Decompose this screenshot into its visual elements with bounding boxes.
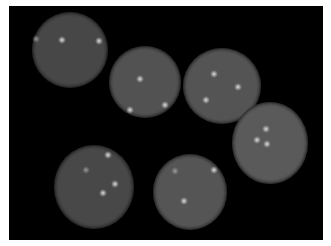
microscopy-image <box>9 6 323 240</box>
fluorescent-spot <box>210 166 218 174</box>
fluorescent-spot <box>263 140 271 148</box>
fluorescent-spot <box>111 180 119 188</box>
fluorescent-spot <box>161 101 169 109</box>
cell <box>109 46 181 118</box>
fluorescent-spot <box>202 96 210 104</box>
cell <box>153 154 227 230</box>
fluorescent-spot <box>136 75 144 83</box>
cell <box>54 145 134 229</box>
fluorescent-spot <box>32 35 40 43</box>
fluorescent-spot <box>262 125 270 133</box>
fluorescent-spot <box>180 197 188 205</box>
fluorescent-spot <box>126 106 134 114</box>
fluorescent-spot <box>104 151 112 159</box>
fluorescent-spot <box>82 166 90 174</box>
fluorescent-spot <box>234 83 242 91</box>
fluorescent-spot <box>171 167 179 175</box>
cell <box>32 12 108 88</box>
fluorescent-spot <box>253 136 261 144</box>
fluorescent-spot <box>95 37 103 45</box>
fluorescent-spot <box>99 189 107 197</box>
fluorescent-spot <box>58 36 66 44</box>
fluorescent-spot <box>210 70 218 78</box>
